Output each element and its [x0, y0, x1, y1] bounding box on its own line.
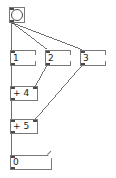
message-box-3-outlet[interactable] [81, 63, 85, 65]
plus-4-inlet-right[interactable] [33, 87, 37, 89]
number-box-corner [47, 151, 55, 159]
plus-5-inlet-right[interactable] [33, 120, 37, 122]
bang-object[interactable] [9, 7, 25, 23]
number-box-value: 0 [13, 158, 19, 167]
object-box-plus-4[interactable]: + 4 [10, 86, 38, 101]
message-box-2-inlet[interactable] [46, 51, 50, 53]
wire-bang-to-msg3 [12, 23, 83, 50]
plus-5-inlet-left[interactable] [11, 120, 15, 122]
message-box-flag [67, 50, 71, 66]
object-box-plus-5-label: + 5 [13, 122, 29, 131]
bang-inlet[interactable] [10, 8, 14, 10]
message-box-3[interactable]: 3 [80, 50, 106, 66]
plus-4-outlet[interactable] [11, 98, 15, 100]
message-box-2[interactable]: 2 [45, 50, 71, 66]
message-box-1-label: 1 [13, 54, 19, 63]
message-box-1[interactable]: 1 [10, 50, 36, 66]
message-box-1-inlet[interactable] [11, 51, 15, 53]
object-box-plus-5[interactable]: + 5 [10, 119, 38, 134]
number-box[interactable]: 0 [10, 155, 52, 170]
wire-bang-to-msg2 [12, 23, 48, 50]
object-box-plus-4-label: + 4 [13, 89, 29, 98]
plus-4-inlet-left[interactable] [11, 87, 15, 89]
number-box-outlet[interactable] [11, 167, 15, 169]
number-box-inlet[interactable] [11, 156, 15, 158]
message-box-3-label: 3 [83, 54, 89, 63]
plus-5-outlet[interactable] [11, 131, 15, 133]
message-box-2-outlet[interactable] [46, 63, 50, 65]
wire-msg2-to-plus4 [36, 66, 47, 86]
wire-msg3-to-plus5 [36, 66, 82, 119]
message-box-flag [32, 50, 36, 66]
message-box-3-inlet[interactable] [81, 51, 85, 53]
message-box-2-label: 2 [48, 54, 54, 63]
message-box-flag [102, 50, 106, 66]
bang-outlet[interactable] [10, 20, 14, 22]
pd-patch-canvas[interactable]: 1 2 3 + 4 + 5 0 [0, 0, 116, 178]
message-box-1-outlet[interactable] [11, 63, 15, 65]
